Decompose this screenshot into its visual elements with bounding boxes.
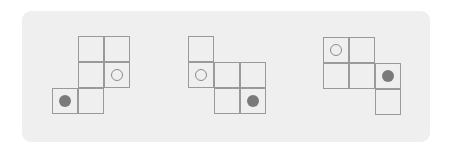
net-cell [375, 89, 401, 115]
filled-circle-icon [247, 95, 259, 107]
net-cell [78, 36, 104, 62]
net-cell [323, 37, 349, 63]
net-cell [375, 63, 401, 89]
hollow-circle-icon [111, 69, 123, 81]
net-cell [104, 36, 130, 62]
net-cell [349, 37, 375, 63]
net-cell [188, 62, 214, 88]
net-cell [214, 88, 240, 114]
net-cell [349, 63, 375, 89]
filled-circle-icon [382, 70, 394, 82]
hollow-circle-icon [195, 69, 207, 81]
net-cell [104, 62, 130, 88]
net-cell [52, 88, 78, 114]
net-cell [78, 62, 104, 88]
net-cell [240, 62, 266, 88]
net-cell [323, 63, 349, 89]
filled-circle-icon [59, 95, 71, 107]
net-cell [188, 36, 214, 62]
net-cell [78, 88, 104, 114]
hollow-circle-icon [330, 44, 342, 56]
net-cell [240, 88, 266, 114]
net-cell [214, 62, 240, 88]
